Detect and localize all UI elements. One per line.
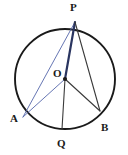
center-point-marker	[63, 77, 67, 81]
segment-A-O	[23, 79, 65, 117]
segment-O-B	[65, 79, 100, 111]
point-label-P: P	[70, 2, 77, 13]
point-label-O: O	[53, 68, 62, 79]
point-label-B: B	[101, 122, 108, 133]
geometry-figure: P O A B Q	[0, 0, 128, 155]
point-label-Q: Q	[57, 138, 66, 149]
segment-O-Q	[62, 79, 65, 129]
geometry-canvas	[0, 0, 128, 155]
point-label-A: A	[10, 113, 18, 124]
